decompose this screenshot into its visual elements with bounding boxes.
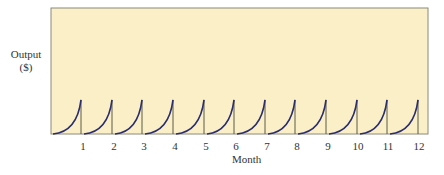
x-tick-label: 4: [172, 140, 178, 152]
x-tick-label: 3: [141, 140, 147, 152]
x-axis-label-text: Month: [232, 153, 261, 165]
x-tick-label: 12: [414, 140, 425, 152]
x-tick-label: 1: [80, 140, 86, 152]
y-axis-label-line1: Output: [6, 48, 46, 61]
x-tick-label: 7: [264, 140, 270, 152]
x-tick-label: 2: [111, 140, 117, 152]
y-axis-label: Output ($): [6, 48, 46, 74]
x-tick-label: 6: [233, 140, 239, 152]
x-tick-label: 10: [353, 140, 365, 152]
x-tick-label: 11: [383, 140, 394, 152]
x-tick-labels: 123456789101112: [80, 140, 424, 152]
x-tick-label: 9: [325, 140, 331, 152]
chart-canvas: 123456789101112: [0, 0, 444, 175]
x-tick-label: 5: [203, 140, 209, 152]
x-tick-label: 8: [294, 140, 300, 152]
y-axis-label-line2: ($): [6, 61, 46, 74]
